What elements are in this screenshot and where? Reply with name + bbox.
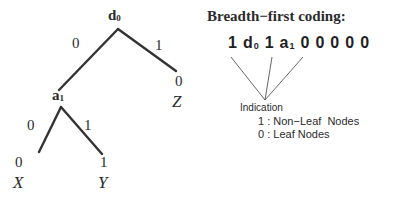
indication-row-leaf: 0 : Leaf Nodes [258, 129, 330, 140]
pointer-line-1 [231, 57, 265, 100]
indication-meaning-0: Leaf Nodes [273, 128, 329, 140]
indication-sep-1: : [264, 115, 273, 127]
indication-meaning-1: Non−Leaf Nodes [273, 115, 359, 127]
indication-heading: Indication [240, 103, 283, 113]
indication-row-nonleaf: 1 : Non−Leaf Nodes [258, 116, 359, 127]
figure-root: d0 a1 0 1 0 1 0 0 1 Z X Y Breadth−first … [0, 0, 405, 198]
pointer-lines [0, 0, 405, 198]
indication-sep-0: : [264, 128, 273, 140]
